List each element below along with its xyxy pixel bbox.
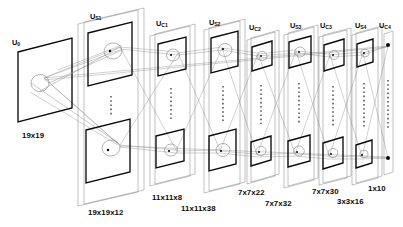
layer-label-us2: US2 (209, 19, 220, 26)
dimension-label-us1: 19x19x12 (88, 209, 124, 217)
layer-label-uc2: UC2 (249, 24, 261, 31)
architecture-diagram-svg: .thick { fill:none; stroke:#0b0b0b; stro… (0, 0, 403, 227)
layer-label-uc1-sub: C1 (161, 22, 167, 28)
layer-label-us3: US3 (290, 22, 301, 29)
dimension-label-uc1: 11x11x8 (152, 194, 182, 202)
stage-us2 (204, 19, 245, 193)
dimension-label-u0: 19x19 (22, 132, 44, 140)
layer-label-us3-sub: S3 (295, 24, 301, 30)
layer-label-us4: US4 (355, 22, 366, 29)
layer-label-uc3: UC3 (320, 22, 332, 29)
stage-us1 (78, 8, 144, 206)
layer-label-uc2-sub: C2 (254, 26, 260, 32)
stage-u0 (18, 38, 122, 143)
layer-label-uc1: UC1 (156, 20, 168, 27)
dimension-label-uc2: 7x7x22 (238, 189, 265, 197)
dimension-label-uc3: 7x7x30 (312, 188, 339, 196)
layer-label-uc4: UC4 (379, 22, 391, 29)
layer-label-uc4-sub: C4 (384, 24, 390, 30)
stage-uc1 (150, 24, 195, 186)
layer-label-u0: U0 (12, 39, 20, 46)
layer-label-us1-sub: S1 (95, 15, 101, 21)
figure-canvas: .thick { fill:none; stroke:#0b0b0b; stro… (0, 0, 403, 227)
stage-us3 (284, 25, 318, 188)
dimension-label-us4: 3x3x16 (337, 198, 364, 206)
dimension-label-us3: 7x7x32 (265, 200, 292, 208)
dimension-label-uc4: 1x10 (368, 185, 386, 193)
layer-label-uc3-sub: C3 (325, 24, 331, 30)
layer-label-u0-sub: 0 (17, 41, 20, 47)
layer-label-us2-sub: S2 (214, 21, 220, 27)
layer-label-us1: US1 (90, 13, 101, 20)
stage-uc2 (247, 30, 279, 184)
dimension-label-us2: 11x11x38 (181, 205, 216, 213)
layer-label-us4-sub: S4 (360, 24, 366, 30)
stage-uc4 (384, 31, 393, 175)
